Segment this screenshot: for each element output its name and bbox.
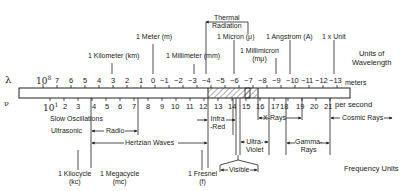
frequency-tick: 7 xyxy=(132,103,136,111)
band-gamma-rays: Gamma-Rays xyxy=(295,138,322,154)
unit-kilometer: 1 Kilometer (km) xyxy=(88,52,139,60)
wavelength-tick: −5 xyxy=(216,77,225,85)
wavelength-first-tick: 108 xyxy=(36,74,51,85)
wavelength-unit-label: meters xyxy=(345,79,366,87)
frequency-tick: 17 xyxy=(271,103,279,111)
frequency-tick: 20 xyxy=(310,103,318,111)
frequency-tick: 21 xyxy=(324,103,332,111)
band-hertzian-waves: Hertzian Waves xyxy=(125,139,174,147)
wavelength-tick: −2 xyxy=(174,77,183,85)
frequency-tick: 3 xyxy=(76,103,80,111)
wavelength-tick: 6 xyxy=(69,77,73,85)
frequency-units-title: Frequency Units xyxy=(344,165,399,173)
unit-millimeter: 1 Millimeter (mm) xyxy=(166,52,220,60)
wavelength-tick: −1 xyxy=(160,77,169,85)
frequency-tick: 16 xyxy=(256,103,264,111)
wavelength-tick: −11 xyxy=(301,77,313,85)
frequency-first-tick: 101 xyxy=(43,101,58,112)
frequency-tick: 2 xyxy=(63,103,67,111)
frequency-tick: 6 xyxy=(118,103,122,111)
frequency-tick: 11 xyxy=(186,103,194,111)
frequency-tick: 4 xyxy=(92,103,96,111)
frequency-tick: 13 xyxy=(214,103,222,111)
wavelength-tick: −3 xyxy=(188,77,197,85)
wavelength-tick: 7 xyxy=(55,77,59,85)
wavelength-tick: −6 xyxy=(230,77,239,85)
frequency-tick: 15 xyxy=(242,103,250,111)
unit-x-unit: 1 x Unit xyxy=(322,33,346,41)
frequency-tick: 5 xyxy=(105,103,109,111)
lambda-symbol: λ xyxy=(5,76,11,84)
frequency-tick: 18 xyxy=(280,103,288,111)
frequency-tick: 14 xyxy=(228,103,236,111)
frequency-unit-label: per second xyxy=(335,101,372,109)
wavelength-tick: −8 xyxy=(258,77,267,85)
band-radio: Radio xyxy=(106,127,124,135)
wavelength-tick: 0 xyxy=(151,77,155,85)
unit-micron: 1 Micron (μ) xyxy=(217,33,254,41)
wavelength-tick: 2 xyxy=(125,77,129,85)
frequency-tick: 8 xyxy=(146,103,150,111)
unit-kilocycle: 1 Kilocycle(kc) xyxy=(58,170,91,186)
wavelength-tick: 5 xyxy=(83,77,87,85)
wavelength-tick: −9 xyxy=(272,77,281,85)
band-visible: Visible xyxy=(229,166,250,174)
band-ultraviolet: Ultra-Violet xyxy=(246,138,263,154)
wavelength-tick: 4 xyxy=(97,77,101,85)
band-ultrasonic: Ultrasonic xyxy=(51,127,82,135)
wavelength-tick: 3 xyxy=(111,77,115,85)
unit-megacycle: 1 Megacycle(mc) xyxy=(100,170,139,186)
wavelength-tick: −7 xyxy=(244,77,253,85)
unit-meter: 1 Meter (m) xyxy=(136,33,172,41)
wavelength-tick: −13 xyxy=(329,77,342,85)
band-cosmic-rays: Cosmic Rays xyxy=(342,114,383,122)
unit-fresnel: 1 Fresnel(f) xyxy=(188,170,217,186)
wavelength-tick: −10 xyxy=(286,77,299,85)
wavelength-tick: −4 xyxy=(202,77,211,85)
frequency-tick: 10 xyxy=(171,103,179,111)
unit-millimicron: 1 Millimicron(mμ) xyxy=(240,47,279,63)
spectrum-graphics xyxy=(0,0,413,191)
band-infrared: Infra-Red xyxy=(210,115,225,131)
thermal-radiation-label: ThermalRadiation xyxy=(212,14,242,30)
wavelength-tick: −12 xyxy=(315,77,328,85)
band-x-rays: X-Rays xyxy=(263,114,286,122)
nu-symbol: ν xyxy=(4,100,9,108)
wavelength-tick: 1 xyxy=(139,77,143,85)
frequency-tick: 19 xyxy=(296,103,304,111)
frequency-tick: 12 xyxy=(199,103,207,111)
wavelength-units-title: Units ofWavelength xyxy=(352,49,391,67)
frequency-tick: 9 xyxy=(160,103,164,111)
band-slow-oscillations: Slow Oscillations xyxy=(50,115,103,123)
unit-angstrom: 1 Angstrom (A) xyxy=(266,33,313,41)
